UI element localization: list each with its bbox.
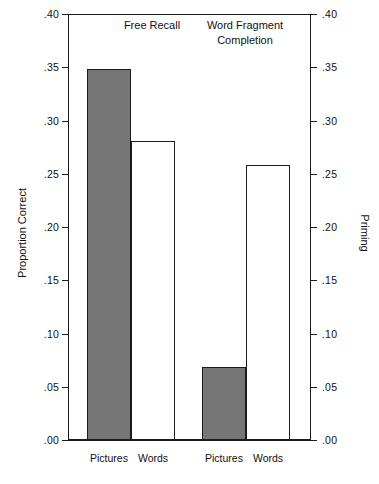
y-tick-label-right: .10 (322, 329, 337, 339)
y-tick-right (311, 334, 317, 335)
y-tick-right (311, 174, 317, 175)
y-tick-label-right: .20 (322, 222, 337, 232)
y-tick-right (311, 14, 317, 15)
y-tick-right (311, 440, 317, 441)
chart-figure: .40.40.35.35.30.30.25.25.20.20.15.15.10.… (0, 0, 379, 484)
y-tick-right (311, 67, 317, 68)
y-tick-label-left: .35 (44, 62, 59, 72)
axis-line-bottom (62, 440, 317, 441)
bar (246, 165, 290, 440)
y-tick-label-left: .20 (44, 222, 59, 232)
y-tick-left (62, 280, 68, 281)
y-tick-label-left: .05 (44, 382, 59, 392)
y-tick-left (62, 14, 68, 15)
y-axis-label-right: Priming (359, 163, 371, 303)
y-tick-label-left: .15 (44, 275, 59, 285)
y-axis-label-left: Proportion Correct (16, 163, 28, 303)
y-tick-label-right: .00 (322, 435, 337, 445)
y-tick-left (62, 174, 68, 175)
x-category-label: Words (236, 452, 300, 464)
y-tick-label-left: .25 (44, 169, 59, 179)
y-tick-label-right: .05 (322, 382, 337, 392)
y-tick-label-right: .15 (322, 275, 337, 285)
x-category-label: Words (121, 452, 185, 464)
y-tick-right (311, 121, 317, 122)
y-tick-left (62, 440, 68, 441)
y-tick-label-right: .30 (322, 116, 337, 126)
y-tick-label-left: .30 (44, 116, 59, 126)
y-tick-right (311, 227, 317, 228)
y-tick-left (62, 67, 68, 68)
bar (202, 367, 246, 440)
y-tick-label-left: .00 (44, 435, 59, 445)
y-tick-label-right: .35 (322, 62, 337, 72)
y-tick-left (62, 334, 68, 335)
y-tick-left (62, 387, 68, 388)
y-tick-left (62, 121, 68, 122)
y-tick-label-left: .40 (44, 9, 59, 19)
y-tick-label-right: .25 (322, 169, 337, 179)
y-tick-label-left: .10 (44, 329, 59, 339)
y-tick-right (311, 280, 317, 281)
bar (131, 141, 175, 440)
bar (87, 69, 131, 440)
y-tick-label-right: .40 (322, 9, 337, 19)
y-tick-right (311, 387, 317, 388)
group-title-word-fragment-completion: Word Fragment Completion (178, 18, 312, 48)
y-tick-left (62, 227, 68, 228)
